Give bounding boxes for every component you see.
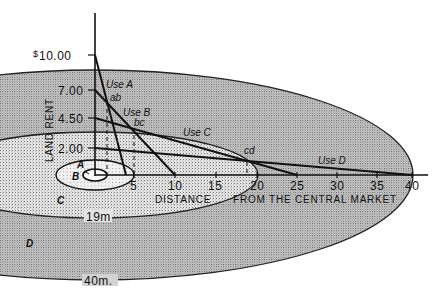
- x-tick-35: 35: [370, 179, 384, 193]
- x-tick-10: 10: [168, 179, 182, 193]
- x-axis-title-from-market: FROM THE CENTRAL MARKET: [233, 194, 397, 205]
- y-tick-7: 7.00: [58, 84, 83, 98]
- y-tick-2: 2.00: [58, 142, 83, 156]
- zone-b-label: B: [72, 171, 79, 182]
- x-tick-40: 40: [405, 179, 419, 193]
- x-tick-15: 15: [208, 179, 222, 193]
- zone-c-label: C: [57, 195, 65, 206]
- y-axis-title: LAND RENT: [44, 98, 55, 162]
- bc-intersection-label: bc: [134, 117, 145, 128]
- use-c-label: Use C: [183, 127, 212, 138]
- x-tick-20: 20: [250, 179, 264, 193]
- use-a-label: Use A: [106, 79, 133, 90]
- x-tick-25: 25: [290, 179, 304, 193]
- x-axis-title-distance: DISTANCE: [155, 194, 211, 205]
- ring-40m-label: 40m.: [84, 274, 113, 288]
- zone-d-label: D: [26, 238, 33, 249]
- y-currency-symbol: $: [33, 49, 38, 59]
- x-tick-5: 5: [130, 179, 137, 193]
- use-d-label: Use D: [318, 155, 346, 166]
- land-rent-diagram: $ 10.00 7.00 4.50 2.00 LAND RENT 5 10 15…: [0, 0, 435, 294]
- y-tick-10: 10.00: [39, 49, 72, 63]
- ab-intersection-label: ab: [110, 92, 122, 103]
- ring-19m-label: 19m: [86, 210, 111, 224]
- zone-a-label: A: [76, 159, 84, 170]
- x-tick-30: 30: [330, 179, 344, 193]
- y-tick-4-50: 4.50: [58, 112, 83, 126]
- cd-intersection-label: cd: [244, 145, 255, 156]
